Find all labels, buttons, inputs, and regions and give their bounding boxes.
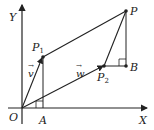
x-axis-label: X — [139, 115, 147, 126]
point-p2-sub: 2 — [104, 77, 108, 85]
point-p1-sub: 1 — [39, 47, 43, 55]
origin-label: O — [9, 112, 18, 123]
point-p-label: P — [130, 6, 137, 17]
segment-p1-p — [43, 11, 126, 57]
point-p — [124, 9, 128, 13]
vector-arrow-icon: → — [28, 63, 34, 70]
vector-arrow-icon: → — [76, 63, 82, 70]
vector-addition-diagram: Y X O A B P P1 P2 →v →w — [0, 0, 154, 130]
point-p2-label: P2 — [97, 72, 109, 85]
vector-w — [22, 66, 103, 108]
point-p2 — [102, 64, 106, 68]
segment-p2-p — [104, 11, 126, 66]
right-angle-mark-a — [36, 101, 43, 108]
vector-v-label: →v — [28, 69, 34, 79]
point-p1-label: P1 — [32, 42, 44, 55]
point-p1 — [41, 55, 45, 59]
point-b-label: B — [130, 62, 138, 73]
point-b — [124, 64, 128, 68]
point-a-label: A — [39, 115, 47, 126]
y-axis-label: Y — [9, 12, 16, 23]
vector-w-label: →w — [76, 69, 85, 79]
